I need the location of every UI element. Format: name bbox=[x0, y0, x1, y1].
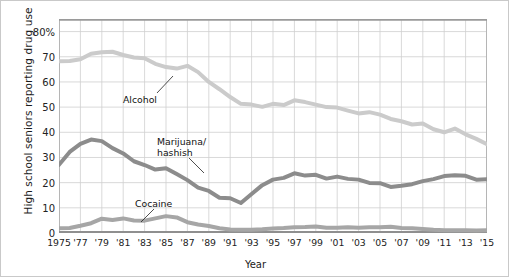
marijuana-annotation-line2: hashish bbox=[157, 148, 206, 159]
x-tick-label: '05 bbox=[373, 237, 387, 248]
x-tick-label: '83 bbox=[137, 237, 151, 248]
x-tick-label: '95 bbox=[266, 237, 280, 248]
y-tick-label: 60 bbox=[5, 76, 55, 87]
x-tick-label: '09 bbox=[416, 237, 430, 248]
x-tick-label: '93 bbox=[244, 237, 258, 248]
x-tick-label: '79 bbox=[95, 237, 109, 248]
x-tick-label: '97 bbox=[287, 237, 301, 248]
y-tick-label: 50 bbox=[5, 102, 55, 113]
y-tick-label: 20 bbox=[5, 177, 55, 188]
x-tick-label: '89 bbox=[202, 237, 216, 248]
plot-area bbox=[59, 19, 487, 233]
chart-canvas bbox=[59, 19, 487, 233]
x-tick-label: '91 bbox=[223, 237, 237, 248]
x-tick-label: '13 bbox=[458, 237, 472, 248]
x-tick-label: '87 bbox=[180, 237, 194, 248]
y-tick-label: 10 bbox=[5, 202, 55, 213]
y-tick-label: 30 bbox=[5, 152, 55, 163]
marijuana-annotation: Marijuana/hashish bbox=[157, 137, 206, 158]
chart-figure: High school seniors reporting drug use Y… bbox=[0, 0, 509, 277]
x-tick-label: '07 bbox=[394, 237, 408, 248]
x-tick-label: '85 bbox=[159, 237, 173, 248]
alcohol-annotation: Alcohol bbox=[123, 95, 157, 106]
x-tick-label: '77 bbox=[73, 237, 87, 248]
y-tick-label: 70 bbox=[5, 51, 55, 62]
y-tick-label: 80% bbox=[5, 26, 55, 37]
x-axis-title: Year bbox=[1, 259, 509, 270]
x-tick-label: '11 bbox=[437, 237, 451, 248]
cocaine-annotation: Cocaine bbox=[135, 199, 172, 210]
x-tick-label: 1975 bbox=[47, 237, 71, 248]
x-tick-label: '01 bbox=[330, 237, 344, 248]
x-tick-label: '99 bbox=[309, 237, 323, 248]
x-tick-label: '81 bbox=[116, 237, 130, 248]
y-tick-label: 40 bbox=[5, 127, 55, 138]
x-tick-label: '03 bbox=[351, 237, 365, 248]
x-tick-label: '15 bbox=[480, 237, 494, 248]
